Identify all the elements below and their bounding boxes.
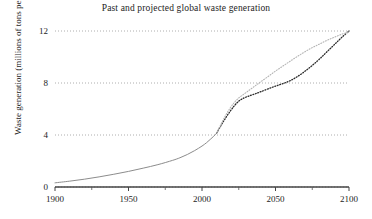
series-line-projection-low [217,31,349,133]
y-tick-label: 8 [44,78,49,88]
plot-area: 04812 19001950200020502100 [0,0,372,219]
x-axis-ticks: 19001950200020502100 [46,187,359,204]
chart-container: Past and projected global waste generati… [0,0,372,219]
x-tick-label: 1950 [120,194,139,204]
data-series-group [55,31,349,183]
y-tick-label: 12 [39,26,48,36]
series-line-projection-high [217,32,349,133]
x-tick-label: 2100 [340,194,359,204]
y-tick-label: 4 [44,130,49,140]
x-tick-label: 2000 [193,194,212,204]
y-tick-label: 0 [44,182,49,192]
series-line-historical [55,133,217,183]
x-tick-label: 1900 [46,194,65,204]
x-tick-label: 2050 [267,194,286,204]
gridlines-group [55,31,349,187]
y-axis-ticks: 04812 [39,26,49,192]
